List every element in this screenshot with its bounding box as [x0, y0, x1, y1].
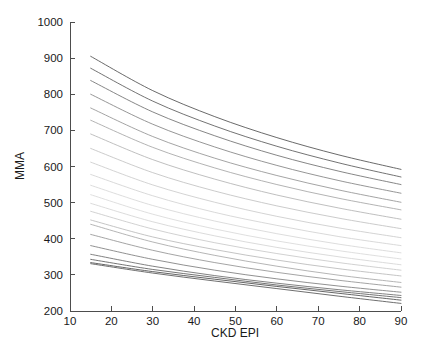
series-group	[91, 56, 401, 303]
series-line-2	[91, 68, 401, 177]
x-tick-label: 40	[188, 315, 201, 327]
y-tick-label: 600	[44, 161, 63, 173]
x-tick-label: 20	[105, 315, 118, 327]
series-line-20	[91, 259, 401, 297]
x-tick-label: 80	[353, 315, 366, 327]
line-chart-plot: 2003004005006007008009001000102030405060…	[0, 0, 435, 343]
series-line-5	[91, 108, 401, 202]
y-axis-title: MMA	[13, 152, 27, 180]
x-tick-label: 90	[395, 315, 408, 327]
x-tick-label: 30	[146, 315, 159, 327]
y-tick-label: 200	[44, 305, 63, 317]
y-tick-label: 800	[44, 88, 63, 100]
y-tick-label: 700	[44, 124, 63, 136]
y-tick-label: 1000	[37, 16, 63, 28]
x-tick-label: 60	[270, 315, 283, 327]
series-line-12	[91, 195, 401, 259]
series-line-1	[91, 56, 401, 169]
series-line-8	[91, 148, 401, 228]
chart-figure: 2003004005006007008009001000102030405060…	[0, 0, 435, 343]
y-tick-label: 500	[44, 197, 63, 209]
x-tick-label: 10	[64, 315, 77, 327]
axes-group	[70, 22, 401, 311]
y-tick-label: 900	[44, 52, 63, 64]
series-line-3	[91, 81, 401, 185]
x-axis-title: CKD EPI	[211, 326, 259, 340]
series-line-13	[91, 203, 401, 264]
series-line-6	[91, 120, 401, 210]
y-tick-label: 400	[44, 233, 63, 245]
y-tick-label: 300	[44, 269, 63, 281]
series-line-9	[91, 162, 401, 238]
x-tick-label: 70	[312, 315, 325, 327]
series-line-4	[91, 94, 401, 193]
